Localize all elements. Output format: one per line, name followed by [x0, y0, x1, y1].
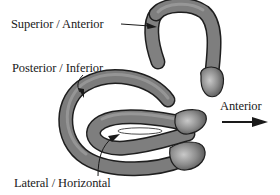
anterior-direction-label: Anterior [220, 100, 262, 113]
superior-ampulla [201, 67, 224, 97]
posterior-inferior-label: Posterior / Inferior [12, 62, 103, 75]
anterior-direction-arrow [222, 117, 268, 127]
lateral-ampulla [175, 110, 206, 134]
lateral-horizontal-label: Lateral / Horizontal [14, 177, 111, 190]
semicircular-canals-diagram: Superior / Anterior Posterior / Inferior… [0, 0, 280, 195]
superior-anterior-label: Superior / Anterior [11, 18, 104, 31]
posterior-ampulla [170, 142, 205, 170]
